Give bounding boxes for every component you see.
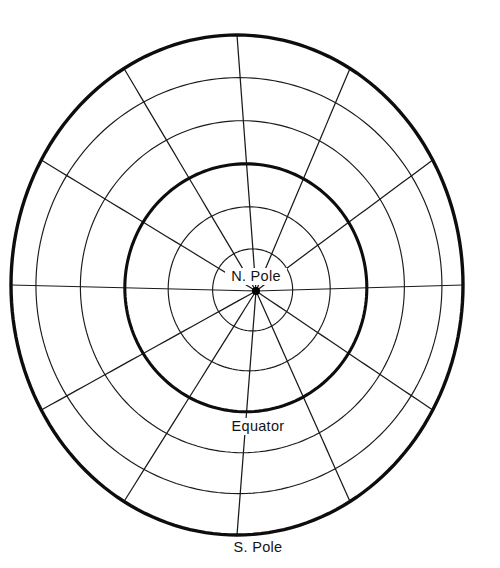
meridian-270deg [11,285,256,291]
parallel-30-s [80,121,404,453]
meridian-90deg [256,285,463,291]
south-pole-label: S. Pole [234,539,283,555]
north-pole-label: N. Pole [231,268,281,284]
north-pole-marker [252,287,260,295]
meridian-300deg [41,160,256,291]
polar-projection-figure: N. PoleEquatorS. Pole [0,0,500,568]
equator-label: Equator [232,418,285,434]
globe-grid-diagram: N. PoleEquatorS. Pole [0,0,500,568]
meridian-240deg [41,291,256,410]
